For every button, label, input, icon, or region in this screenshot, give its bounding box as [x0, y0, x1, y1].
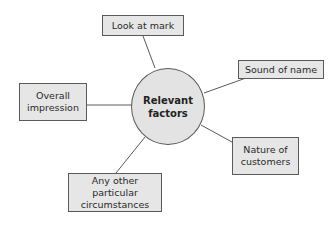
- node-sound-of-name: Sound of name: [238, 60, 324, 79]
- node-label: Nature of customers: [241, 144, 291, 168]
- connector-nature: [201, 125, 232, 142]
- node-label: Overall impression: [27, 90, 79, 114]
- node-nature-of-customers: Nature of customers: [232, 137, 299, 175]
- node-label: Look at mark: [112, 20, 174, 32]
- node-overall-impression: Overall impression: [19, 83, 87, 121]
- hub-label: Relevant factors: [143, 94, 193, 120]
- node-label: Any other particular circumstances: [69, 175, 161, 211]
- connector-sound: [204, 78, 246, 93]
- node-any-other-circumstances: Any other particular circumstances: [68, 173, 162, 212]
- node-label: Sound of name: [245, 64, 317, 76]
- mind-map-canvas: Relevant factors Look at mark Sound of n…: [0, 0, 335, 225]
- connector-other: [116, 137, 145, 173]
- node-look-at-mark: Look at mark: [102, 15, 184, 36]
- hub-relevant-factors: Relevant factors: [131, 68, 205, 145]
- connector-look: [143, 36, 155, 68]
